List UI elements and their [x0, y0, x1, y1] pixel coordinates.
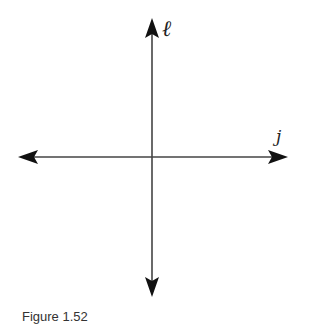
- line-j: [18, 150, 288, 164]
- line-l-label: ℓ: [162, 16, 171, 42]
- line-j-label: j: [276, 126, 281, 146]
- figure-caption: Figure 1.52: [22, 309, 88, 324]
